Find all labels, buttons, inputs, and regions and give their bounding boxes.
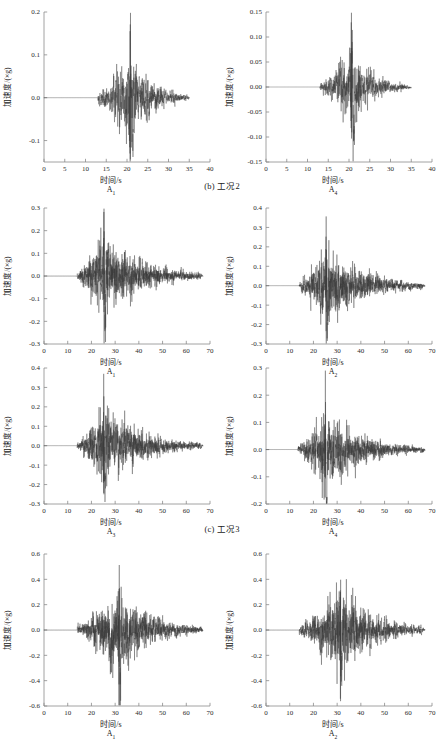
x-tick-label: 30 xyxy=(165,165,173,173)
y-tick-label: 0.6 xyxy=(31,550,40,558)
subplot-body: -0.15-0.10-0.050.000.050.100.15051015202… xyxy=(222,0,444,202)
y-tick-label: 0.05 xyxy=(250,58,263,66)
x-tick-label: 20 xyxy=(124,165,132,173)
y-tick-label: 0.4 xyxy=(31,364,40,372)
y-tick-label: 0.0 xyxy=(253,626,262,634)
x-tick-label: 40 xyxy=(429,165,437,173)
x-tick-label: 30 xyxy=(387,165,395,173)
x-tick-label: 15 xyxy=(103,165,111,173)
x-axis-title: 时间/s xyxy=(0,718,222,729)
x-tick-label: 0 xyxy=(264,507,268,515)
x-tick-label: 50 xyxy=(159,507,167,515)
y-tick-label: -0.2 xyxy=(251,500,263,508)
x-tick-label: 20 xyxy=(310,507,318,515)
plot-canvas: -0.10.00.10.20510152025303540加速度/(×g) xyxy=(0,0,222,202)
subplot-a1: -0.6-0.4-0.20.00.20.40.6010203040506070加… xyxy=(0,542,222,743)
x-tick-label: 10 xyxy=(286,347,294,355)
y-axis-title: 加速度/(×g) xyxy=(2,67,12,107)
x-tick-label: 30 xyxy=(334,507,342,515)
x-tick-label: 0 xyxy=(42,507,46,515)
waveform-trace xyxy=(44,13,189,162)
y-tick-label: 0.10 xyxy=(250,33,263,41)
y-tick-label: 0.1 xyxy=(253,419,262,427)
x-tick-label: 10 xyxy=(82,165,90,173)
x-tick-label: 25 xyxy=(144,165,152,173)
y-tick-label: 0.0 xyxy=(31,442,40,450)
y-tick-label: 0.4 xyxy=(253,204,262,212)
x-tick-label: 60 xyxy=(405,709,413,717)
x-tick-label: 0 xyxy=(264,709,268,717)
waveform-trace xyxy=(266,216,425,343)
waveform-trace xyxy=(44,209,203,344)
plot-canvas: -0.15-0.10-0.050.000.050.100.15051015202… xyxy=(222,0,444,202)
x-tick-label: 20 xyxy=(310,709,318,717)
x-tick-label: 10 xyxy=(286,507,294,515)
x-tick-label: 30 xyxy=(334,709,342,717)
x-tick-label: 30 xyxy=(334,347,342,355)
caption-b: (b) 工况2 xyxy=(0,179,444,191)
x-tick-label: 40 xyxy=(357,709,365,717)
y-tick-label: 0.0 xyxy=(253,282,262,290)
x-tick-label: 40 xyxy=(135,709,143,717)
x-tick-label: 35 xyxy=(186,165,194,173)
x-axis-title: 时间/s xyxy=(222,718,444,729)
y-tick-label: 0.2 xyxy=(253,243,262,251)
axis-lines xyxy=(266,208,432,344)
x-tick-label: 30 xyxy=(112,507,120,515)
x-tick-label: 30 xyxy=(112,347,120,355)
y-tick-label: -0.2 xyxy=(251,321,263,329)
x-tick-label: 10 xyxy=(64,709,72,717)
x-tick-label: 5 xyxy=(63,165,67,173)
x-tick-label: 35 xyxy=(408,165,416,173)
x-tick-label: 20 xyxy=(88,507,96,515)
x-tick-label: 10 xyxy=(64,507,72,515)
y-tick-label: 0.2 xyxy=(31,601,40,609)
subplot-body: -0.6-0.4-0.20.00.20.40.6010203040506070加… xyxy=(222,542,444,743)
x-tick-label: 70 xyxy=(207,709,215,717)
subplot-label-subscript: 1 xyxy=(112,734,115,740)
x-tick-label: 10 xyxy=(286,709,294,717)
x-tick-label: 70 xyxy=(207,507,215,515)
y-tick-label: 0.1 xyxy=(31,250,40,258)
subplot-a1: -0.10.00.10.20510152025303540加速度/(×g)时间/… xyxy=(0,0,222,202)
y-tick-label: -0.6 xyxy=(29,702,41,710)
y-tick-label: 0.4 xyxy=(253,576,262,584)
waveform-trace xyxy=(266,371,425,504)
y-tick-label: 0.0 xyxy=(31,272,40,280)
x-tick-label: 20 xyxy=(88,347,96,355)
y-tick-label: -0.6 xyxy=(251,702,263,710)
x-tick-label: 30 xyxy=(112,709,120,717)
x-tick-label: 60 xyxy=(405,507,413,515)
y-tick-label: 0.1 xyxy=(31,423,40,431)
x-tick-label: 40 xyxy=(135,507,143,515)
x-tick-label: 50 xyxy=(159,709,167,717)
x-tick-label: 0 xyxy=(42,709,46,717)
y-tick-label: 0.3 xyxy=(253,364,262,372)
x-tick-label: 0 xyxy=(42,165,46,173)
y-tick-label: -0.4 xyxy=(29,677,41,685)
y-tick-label: 0.4 xyxy=(31,576,40,584)
waveform-trace xyxy=(266,579,425,701)
y-tick-label: -0.4 xyxy=(251,677,263,685)
y-tick-label: -0.3 xyxy=(251,340,263,348)
y-tick-label: 0.1 xyxy=(253,263,262,271)
subplot-body: -0.10.00.10.20510152025303540加速度/(×g)时间/… xyxy=(0,0,222,202)
x-tick-label: 20 xyxy=(346,165,354,173)
y-tick-label: -0.1 xyxy=(29,137,41,145)
x-tick-label: 60 xyxy=(183,507,191,515)
y-tick-label: 0.2 xyxy=(253,392,262,400)
y-tick-label: 0.6 xyxy=(253,550,262,558)
y-tick-label: 0.00 xyxy=(250,83,263,91)
y-axis-title: 加速度/(×g) xyxy=(224,67,234,107)
y-tick-label: -0.10 xyxy=(247,133,262,141)
y-tick-label: 0.3 xyxy=(31,384,40,392)
y-tick-label: 0.0 xyxy=(253,446,262,454)
waveform-trace xyxy=(266,13,411,162)
y-tick-label: 0.3 xyxy=(253,224,262,232)
y-tick-label: 0.0 xyxy=(31,626,40,634)
caption-c: (c) 工况3 xyxy=(0,522,444,534)
x-tick-label: 25 xyxy=(366,165,374,173)
x-tick-label: 70 xyxy=(429,507,437,515)
plot-canvas: -0.6-0.4-0.20.00.20.40.6010203040506070加… xyxy=(222,542,444,743)
